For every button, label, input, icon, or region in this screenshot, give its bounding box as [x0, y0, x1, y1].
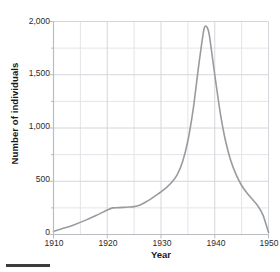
x-tick-label-1920: 1920: [92, 238, 124, 248]
y-tick-label-1500: 1,500: [8, 68, 50, 78]
y-tick-label-2000: 2,000: [8, 16, 50, 26]
y-tick-label-500: 500: [8, 174, 50, 184]
axis-ticks: [50, 22, 269, 239]
y-axis-title: Number of individuals: [9, 34, 20, 194]
x-tick-label-1950: 1950: [253, 238, 280, 248]
x-tick-label-1930: 1930: [146, 238, 178, 248]
y-tick-label-1000: 1,000: [8, 121, 50, 131]
grid-major: [54, 22, 269, 235]
page-footer-rule: [6, 264, 50, 267]
x-axis-title: Year: [53, 249, 269, 260]
x-tick-label-1910: 1910: [38, 238, 70, 248]
chart-container: Number of individuals Year 2,000 1,500 1…: [0, 0, 280, 272]
x-tick-label-1940: 1940: [200, 238, 232, 248]
y-tick-label-0: 0: [8, 227, 50, 237]
